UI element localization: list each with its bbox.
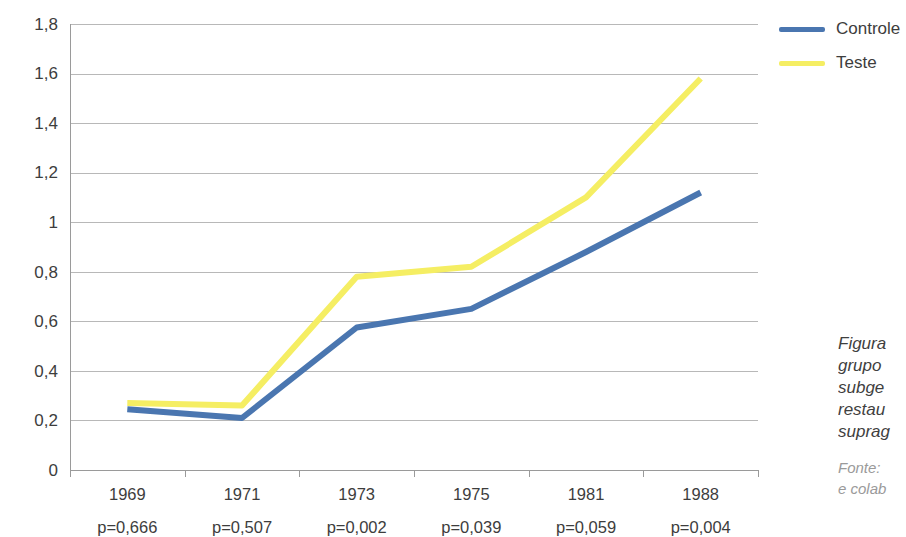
x-tick-pvalue: p=0,507 — [185, 519, 300, 536]
caption-title: Figuragruposubgerestausuprag — [838, 333, 906, 443]
x-axis: 1969p=0,6661971p=0,5071973p=0,0021975p=0… — [70, 478, 758, 534]
x-tick-year: 1969 — [70, 486, 185, 503]
x-tick-year: 1975 — [414, 486, 529, 503]
x-tick-year: 1981 — [529, 486, 644, 503]
x-tick-1969: 1969p=0,666 — [70, 478, 185, 534]
caption-line: Figura — [838, 333, 906, 355]
x-tick-pvalue: p=0,004 — [643, 519, 758, 536]
x-tick-1988: 1988p=0,004 — [643, 478, 758, 534]
series-line-teste — [127, 79, 700, 406]
figure-caption: Figuragruposubgerestausuprag Fonte:e col… — [838, 333, 906, 533]
x-tick-year: 1973 — [299, 486, 414, 503]
series-lines — [127, 79, 700, 419]
caption-line: subge — [838, 377, 906, 399]
series-line-controle — [127, 193, 700, 419]
x-tick-pvalue: p=0,002 — [299, 519, 414, 536]
legend-swatch-controle — [779, 27, 825, 32]
x-tick-pvalue: p=0,039 — [414, 519, 529, 536]
caption-line: suprag — [838, 421, 906, 443]
x-tick-1975: 1975p=0,039 — [414, 478, 529, 534]
caption-line: e colab — [838, 478, 906, 499]
x-tick-1971: 1971p=0,507 — [185, 478, 300, 534]
legend-label-teste: Teste — [836, 53, 877, 73]
x-tick-pvalue: p=0,059 — [529, 519, 644, 536]
caption-line: restau — [838, 399, 906, 421]
legend-label-controle: Controle — [836, 19, 900, 39]
chart-page: 1,8 1,6 1,4 1,2 1 0,8 0,6 0,4 0,2 0 1969… — [0, 0, 906, 537]
x-tick-year: 1988 — [643, 486, 758, 503]
caption-line: grupo — [838, 355, 906, 377]
x-tick-1973: 1973p=0,002 — [299, 478, 414, 534]
line-chart: 1,8 1,6 1,4 1,2 1 0,8 0,6 0,4 0,2 0 1969… — [0, 0, 770, 537]
chart-legend: Controle Teste — [779, 12, 906, 80]
x-tick-year: 1971 — [185, 486, 300, 503]
x-tick-1981: 1981p=0,059 — [529, 478, 644, 534]
plot-area — [0, 0, 770, 537]
legend-swatch-teste — [779, 61, 825, 66]
caption-line: Fonte: — [838, 457, 906, 478]
legend-item-teste[interactable]: Teste — [779, 46, 906, 80]
legend-item-controle[interactable]: Controle — [779, 12, 906, 46]
x-tick-pvalue: p=0,666 — [70, 519, 185, 536]
caption-source: Fonte:e colab — [838, 457, 906, 499]
x-axis-ticks — [71, 470, 759, 477]
